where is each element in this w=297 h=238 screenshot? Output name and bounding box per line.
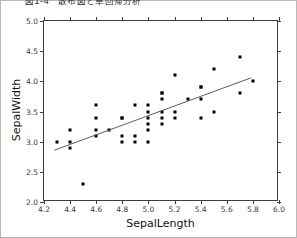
y-tick: [40, 172, 44, 173]
y-tick-label: 2.0: [26, 198, 38, 207]
y-axis-title: SepalWidth: [10, 79, 23, 142]
x-tick: [148, 17, 149, 21]
x-tick-label: 5.4: [195, 205, 207, 214]
y-tick: [40, 51, 44, 52]
y-tick: [40, 21, 44, 22]
y-tick: [277, 112, 281, 113]
y-tick-label: 4.0: [26, 77, 38, 86]
y-tick: [277, 21, 281, 22]
x-tick: [70, 200, 71, 204]
x-tick: [201, 200, 202, 204]
x-tick: [227, 17, 228, 21]
x-tick: [279, 17, 280, 21]
x-tick-label: 5.0: [142, 205, 154, 214]
x-tick-label: 5.2: [169, 205, 181, 214]
x-tick: [44, 17, 45, 21]
y-tick: [40, 81, 44, 82]
x-tick-label: 4.8: [116, 205, 128, 214]
x-tick-label: 4.6: [90, 205, 102, 214]
x-tick: [122, 200, 123, 204]
y-tick-label: 3.5: [26, 107, 38, 116]
y-tick: [40, 112, 44, 113]
x-tick: [227, 200, 228, 204]
x-tick-label: 5.8: [247, 205, 259, 214]
x-tick: [253, 200, 254, 204]
x-tick: [279, 200, 280, 204]
x-axis-title: SepalLength: [43, 217, 278, 230]
figure-title: 図1-4散布図と単回帰分析: [25, 0, 142, 7]
regression-line: [44, 21, 277, 200]
x-tick: [201, 17, 202, 21]
x-tick-label: 4.4: [64, 205, 76, 214]
y-tick: [40, 142, 44, 143]
y-tick-label: 3.0: [26, 137, 38, 146]
figure-title-text: 散布図と単回帰分析: [58, 0, 142, 6]
y-tick-label: 5.0: [26, 17, 38, 26]
x-tick: [253, 17, 254, 21]
y-tick-label: 4.5: [26, 47, 38, 56]
y-tick: [277, 142, 281, 143]
x-tick: [148, 200, 149, 204]
x-tick-label: 6.0: [273, 205, 285, 214]
x-tick: [175, 200, 176, 204]
x-tick: [44, 200, 45, 204]
figure-number: 図1-4: [25, 0, 49, 6]
x-tick-label: 5.6: [221, 205, 233, 214]
x-tick: [70, 17, 71, 21]
x-tick: [96, 17, 97, 21]
y-tick-label: 2.5: [26, 167, 38, 176]
x-tick: [96, 200, 97, 204]
x-tick: [122, 17, 123, 21]
y-tick: [277, 172, 281, 173]
figure-container: 図1-4散布図と単回帰分析 SepalWidth 2.02.53.03.54.0…: [0, 0, 297, 238]
y-axis-title-wrap: SepalWidth: [18, 1, 19, 238]
x-tick-label: 4.2: [38, 205, 50, 214]
y-tick: [277, 51, 281, 52]
x-tick: [175, 17, 176, 21]
y-tick: [277, 81, 281, 82]
plot-area: 2.02.53.03.54.04.55.04.24.44.64.85.05.25…: [43, 20, 278, 201]
